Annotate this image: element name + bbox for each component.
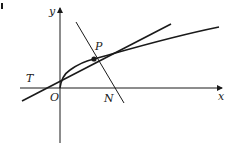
- tangent-line: [22, 24, 171, 101]
- origin-label: O: [50, 91, 59, 104]
- point-n-label: N: [103, 92, 114, 105]
- clipped-corner-mark: [1, 3, 3, 9]
- y-axis-label: y: [48, 5, 56, 18]
- point-p-label: P: [94, 40, 103, 53]
- x-axis-label: x: [218, 90, 225, 103]
- point-p-marker: [91, 56, 96, 61]
- diagram-canvas: y x O P T N: [0, 0, 230, 145]
- point-t-label: T: [26, 72, 35, 85]
